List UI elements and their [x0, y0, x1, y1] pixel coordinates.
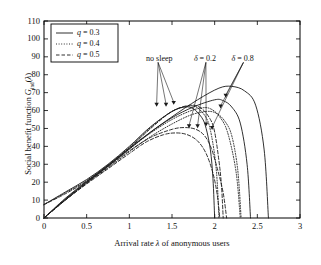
annotation-label: no sleep: [146, 54, 172, 63]
y-tick-label: 110: [16, 16, 40, 26]
legend-label: q = 0.5: [77, 50, 100, 59]
y-tick-label: 20: [16, 177, 40, 187]
curve-solid: [44, 86, 268, 218]
x-tick-label: 2.5: [245, 221, 269, 231]
y-tick-label: 30: [16, 159, 40, 169]
y-tick-label: 100: [16, 33, 40, 43]
x-tick-label: 0.5: [75, 221, 99, 231]
legend-label: q = 0.3: [77, 28, 100, 37]
legend-label: q = 0.4: [77, 39, 100, 48]
x-tick-label: 3: [288, 221, 312, 231]
y-tick-label: 80: [16, 69, 40, 79]
x-tick-label: 1: [117, 221, 141, 231]
y-tick-label: 50: [16, 123, 40, 133]
chart-figure: Social benefit function Gind(λ) Arrival …: [0, 0, 321, 265]
curve-dashed: [44, 105, 223, 218]
x-axis-label-text: Arrival rate λ of anonymous users: [114, 238, 229, 248]
y-tick-label: 90: [16, 51, 40, 61]
y-tick-label: 10: [16, 195, 40, 205]
curve-dotted: [44, 106, 219, 218]
data-curves: [44, 86, 268, 218]
y-tick-label: 60: [16, 105, 40, 115]
x-tick-label: 1.5: [160, 221, 184, 231]
x-tick-label: 2: [203, 221, 227, 231]
annotation-label: δ = 0.8: [231, 54, 253, 63]
x-tick-label: 0: [32, 221, 56, 231]
annotation-label: δ = 0.2: [194, 54, 216, 63]
x-axis-label: Arrival rate λ of anonymous users: [44, 238, 300, 248]
curve-dotted: [44, 108, 240, 218]
curve-solid: [44, 99, 251, 218]
y-tick-label: 40: [16, 141, 40, 151]
curve-solid: [44, 107, 215, 218]
y-tick-label: 70: [16, 87, 40, 97]
